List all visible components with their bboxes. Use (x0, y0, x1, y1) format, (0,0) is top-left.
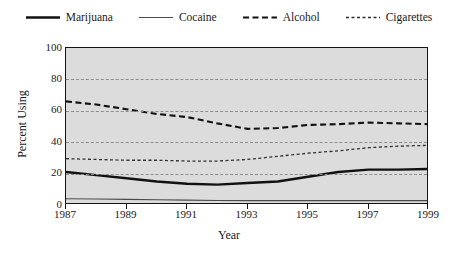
x-axis-label: Year (0, 229, 458, 241)
y-axis-tick-label: 100 (30, 42, 62, 53)
gridline (66, 174, 427, 175)
x-axis-ticks: 1987198919911993199519971999 (65, 209, 428, 223)
legend-item-cocaine[interactable]: Cocaine (139, 12, 217, 24)
gridline (66, 79, 427, 80)
x-axis-tick-label: 1993 (236, 209, 258, 220)
gridline (66, 111, 427, 112)
x-axis-tick-label: 1987 (54, 209, 76, 220)
x-axis-tick-label: 1997 (357, 209, 379, 220)
legend-item-cigarettes[interactable]: Cigarettes (346, 12, 433, 24)
x-axis-tick-label: 1999 (417, 209, 439, 220)
y-axis-tick-label: 60 (30, 104, 62, 115)
plot-inner (66, 48, 427, 203)
legend-swatch-cigarettes (346, 13, 380, 22)
chart-legend: MarijuanaCocaineAlcoholCigarettes (0, 12, 458, 24)
x-axis-tick-label: 1995 (296, 209, 318, 220)
legend-label: Cigarettes (386, 12, 433, 24)
y-axis-label: Percent Using (16, 69, 28, 179)
legend-swatch-cocaine (139, 13, 173, 22)
plot-area (65, 47, 428, 204)
series-line-alcohol (66, 101, 427, 128)
series-line-cigarettes (66, 145, 427, 161)
y-axis-tick-label: 80 (30, 73, 62, 84)
y-axis-ticks: 020406080100 (26, 47, 62, 204)
legend-label: Marijuana (66, 12, 113, 24)
legend-swatch-alcohol (243, 13, 277, 22)
legend-swatch-marijuana (26, 13, 60, 22)
y-axis-tick-label: 40 (30, 136, 62, 147)
series-line-cocaine (66, 199, 427, 201)
x-axis-tick-label: 1989 (115, 209, 137, 220)
series-lines (66, 48, 427, 203)
y-axis-tick-label: 20 (30, 167, 62, 178)
line-chart: MarijuanaCocaineAlcoholCigarettes 020406… (0, 0, 458, 257)
x-axis-tick-label: 1991 (175, 209, 197, 220)
legend-label: Cocaine (179, 12, 217, 24)
legend-item-alcohol[interactable]: Alcohol (243, 12, 320, 24)
legend-item-marijuana[interactable]: Marijuana (26, 12, 113, 24)
gridline (66, 142, 427, 143)
series-line-marijuana (66, 169, 427, 185)
legend-label: Alcohol (283, 12, 320, 24)
